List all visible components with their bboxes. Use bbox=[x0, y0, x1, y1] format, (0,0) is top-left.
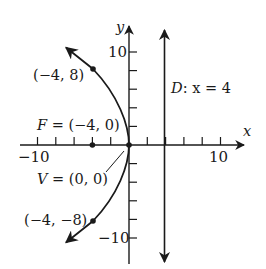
y-tick-label-neg10: −10 bbox=[98, 229, 130, 247]
directrix-name: D bbox=[170, 80, 183, 96]
vertex-leader-line bbox=[106, 151, 124, 172]
focus-label: F = (−4, 0) bbox=[36, 117, 120, 133]
directrix: D: x = 4 bbox=[165, 30, 231, 262]
parabola-figure: x −10 10 y 10 −10 bbox=[0, 0, 266, 269]
vertex-label: V = (0, 0) bbox=[37, 171, 108, 187]
vertex-marker bbox=[126, 142, 132, 148]
focus-label-value: = (−4, 0) bbox=[47, 117, 120, 133]
y-axis-label: y bbox=[115, 19, 125, 35]
directrix-equation: : x = 4 bbox=[183, 80, 231, 96]
point-upper-label: (−4, 8) bbox=[33, 67, 84, 83]
x-axis-label: x bbox=[243, 123, 251, 139]
y-axis: y 10 −10 bbox=[98, 19, 137, 264]
point-lower-marker bbox=[90, 218, 96, 224]
focus-marker bbox=[90, 142, 96, 148]
y-tick-label-10: 10 bbox=[108, 43, 127, 61]
x-tick-label-10: 10 bbox=[209, 148, 228, 166]
vertex-label-value: = (0, 0) bbox=[47, 171, 107, 187]
x-tick-label-neg10: −10 bbox=[18, 148, 50, 166]
directrix-label: D: x = 4 bbox=[170, 80, 231, 96]
point-upper-marker bbox=[90, 66, 96, 72]
point-lower-label: (−4, −8) bbox=[24, 212, 87, 228]
